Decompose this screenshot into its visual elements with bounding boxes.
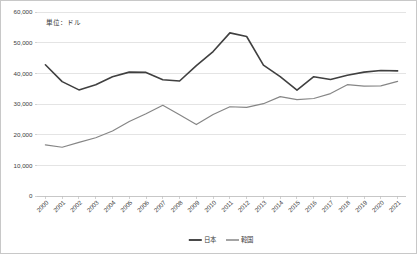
- y-axis-tick-label: 30,000: [14, 100, 33, 107]
- x-axis-tick-label: 2015: [287, 198, 302, 213]
- y-axis-tick-label: 20,000: [14, 131, 33, 138]
- unit-annotation: 単位：ドル: [46, 18, 81, 27]
- chart-legend: 日本韓国: [189, 235, 253, 244]
- series-line-1: [45, 33, 397, 90]
- y-axis-tick-label: 50,000: [14, 39, 33, 46]
- line-chart-plot: 010,00020,00030,00040,00050,00060,000 20…: [1, 1, 417, 254]
- x-axis-tick-label: 2005: [119, 198, 134, 213]
- y-axis-tick-label: 40,000: [14, 70, 33, 77]
- x-axis-tick-label: 2004: [102, 198, 117, 213]
- y-axis-tick-label: 60,000: [14, 8, 33, 15]
- x-axis-tick-label: 2013: [253, 198, 268, 213]
- legend-label-1: 日本: [204, 235, 217, 244]
- legend-label-2: 韓国: [241, 235, 253, 244]
- gridlines: [35, 12, 407, 196]
- x-axis-tick-label: 2012: [236, 198, 251, 213]
- x-axis-tick-label: 2009: [186, 198, 201, 213]
- x-axis-tick-label: 2010: [203, 198, 218, 213]
- x-axis-tick-label: 2002: [68, 198, 83, 213]
- x-axis-tick-label: 2007: [152, 198, 167, 213]
- x-axis-tick-label: 2014: [270, 198, 285, 213]
- y-axis-tick-labels: 010,00020,00030,00040,00050,00060,000: [14, 8, 33, 199]
- x-axis-tick-label: 2017: [320, 198, 335, 213]
- x-axis-tick-label: 2011: [220, 198, 235, 213]
- x-axis-tick-label: 2016: [303, 198, 318, 213]
- x-axis-tick-label: 2021: [387, 198, 402, 213]
- data-series-group: [45, 33, 397, 147]
- x-axis-tick-label: 2003: [85, 198, 100, 213]
- x-axis-tick-label: 2001: [52, 198, 67, 213]
- y-axis-tick-label: 10,000: [14, 162, 33, 169]
- x-axis-tick-label: 2000: [35, 198, 50, 213]
- x-axis-tick-label: 2006: [136, 198, 151, 213]
- series-line-2: [45, 81, 397, 147]
- x-axis-tick-label: 2019: [354, 198, 369, 213]
- x-axis-tick-label: 2018: [337, 198, 352, 213]
- chart-container: 010,00020,00030,00040,00050,00060,000 20…: [0, 0, 417, 254]
- x-axis-tick-label: 2008: [169, 198, 184, 213]
- x-axis-tick-labels: 2000200120022003200420052006200720082009…: [35, 196, 402, 213]
- y-axis-tick-label: 0: [29, 192, 33, 199]
- x-axis-tick-label: 2020: [370, 198, 385, 213]
